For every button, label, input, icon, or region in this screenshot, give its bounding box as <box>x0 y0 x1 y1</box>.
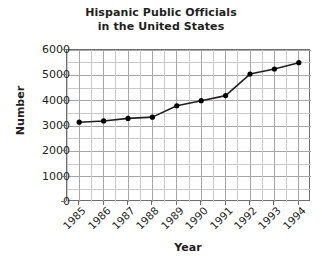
data-point-marker <box>272 66 277 71</box>
x-axis-tick-label: 1991 <box>204 205 234 235</box>
chart-title-line-2: in the United States <box>0 20 322 34</box>
x-axis-tick-label: 1985 <box>58 205 88 235</box>
data-point-marker <box>150 115 155 120</box>
x-axis-title: Year <box>66 241 310 254</box>
data-series-line <box>67 50 311 202</box>
chart-title-line-1: Hispanic Public Officials <box>0 6 322 20</box>
chart-title: Hispanic Public Officials in the United … <box>0 6 322 34</box>
chart-figure: Hispanic Public Officials in the United … <box>0 0 322 265</box>
data-point-marker <box>174 103 179 108</box>
data-point-marker <box>223 93 228 98</box>
plot-area <box>66 49 310 201</box>
data-point-marker <box>101 118 106 123</box>
y-axis-title: Number <box>14 71 27 151</box>
series-line <box>79 63 299 123</box>
x-axis-tick-label: 1993 <box>253 205 283 235</box>
x-axis-tick-label: 1988 <box>131 205 161 235</box>
y-axis-tick-mark <box>61 201 66 202</box>
data-point-marker <box>247 71 252 76</box>
data-point-marker <box>296 60 301 65</box>
data-point-marker <box>125 116 130 121</box>
data-point-marker <box>199 98 204 103</box>
x-axis-tick-label: 1987 <box>106 205 136 235</box>
x-axis-tick-label: 1992 <box>228 205 258 235</box>
x-axis-tick-label: 1990 <box>180 205 210 235</box>
x-axis-tick-label: 1986 <box>82 205 112 235</box>
x-axis-tick-label: 1994 <box>277 205 307 235</box>
data-point-marker <box>77 120 82 125</box>
x-axis-tick-label: 1989 <box>155 205 185 235</box>
